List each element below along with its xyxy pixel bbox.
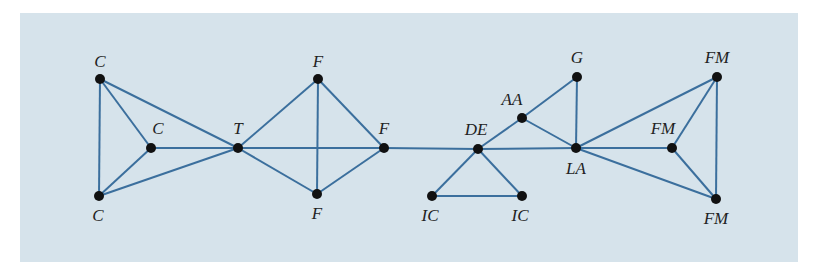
node-label-la: LA [565,159,586,178]
node-label-g: G [571,48,583,67]
node-c1 [95,74,105,84]
node-ic2 [517,191,527,201]
edge-g-la [576,77,577,148]
edge-la-fm1 [576,77,717,148]
edge-de-la [478,148,576,149]
node-f3 [312,189,322,199]
node-ic1 [427,191,437,201]
edge-aa-g [522,77,577,118]
node-label-f3: F [311,204,323,223]
edge-f1-f3 [317,79,318,194]
node-fm1 [712,72,722,82]
node-label-c3: C [92,206,104,225]
node-t [233,143,243,153]
edge-de-ic2 [478,149,522,196]
node-label-de: DE [464,120,488,139]
edge-t-f1 [238,79,318,148]
node-fm3 [711,194,721,204]
node-label-fm2: FM [650,119,676,138]
edge-t-f3 [238,148,317,194]
node-f1 [313,74,323,84]
edge-c1-c2 [100,79,151,148]
node-g [572,72,582,82]
edge-aa-la [522,118,576,148]
edge-fm1-fm3 [716,77,717,199]
node-label-fm1: FM [704,48,730,67]
node-label-c2: C [152,119,164,138]
edge-c1-t [100,79,238,148]
node-label-t: T [233,119,244,138]
node-layer [94,72,722,204]
edge-c2-c3 [99,148,151,196]
network-graph: CCCTFFFDEICICAAGLAFMFMFM [0,0,821,270]
edge-c1-c3 [99,79,100,196]
node-c2 [146,143,156,153]
node-label-fm3: FM [703,209,729,228]
node-label-c1: C [94,52,106,71]
label-layer: CCCTFFFDEICICAAGLAFMFMFM [92,48,730,228]
edge-layer [99,77,717,199]
node-de [473,144,483,154]
node-la [571,143,581,153]
edge-de-ic1 [432,149,478,196]
node-label-aa: AA [501,90,523,109]
node-label-f2: F [378,119,390,138]
edge-f2-f3 [317,148,384,194]
node-label-f1: F [312,52,324,71]
edge-f1-f2 [318,79,384,148]
node-fm2 [667,143,677,153]
node-label-ic1: IC [421,206,440,225]
edge-c3-t [99,148,238,196]
edge-f2-de [384,148,478,149]
node-label-ic2: IC [511,206,530,225]
node-aa [517,113,527,123]
node-f2 [379,143,389,153]
node-c3 [94,191,104,201]
